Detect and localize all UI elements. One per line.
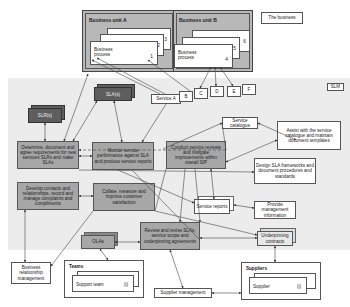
connector-arrows <box>0 0 350 307</box>
